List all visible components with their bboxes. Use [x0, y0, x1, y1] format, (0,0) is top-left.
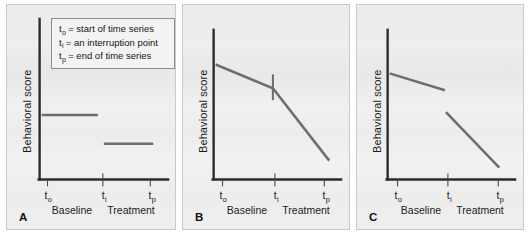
- x-tick-label-t0: to: [44, 189, 51, 201]
- phase-label-baseline: Baseline: [52, 204, 92, 216]
- x-tick-label-tp-sub: p: [500, 195, 504, 204]
- phase-label-treatment: Treatment: [456, 204, 503, 216]
- legend-row: tp = end of time series: [59, 50, 169, 64]
- x-tick-label-ti: ti: [447, 189, 452, 201]
- legend-text: = start of time series: [68, 23, 154, 34]
- x-tick-label-ti-sub: i: [450, 195, 452, 204]
- legend-symbol: tp: [59, 50, 66, 61]
- legend-subscript: i: [62, 42, 64, 49]
- y-axis-title: Behavioral score: [21, 69, 33, 153]
- legend-row: to = start of time series: [59, 23, 169, 37]
- x-tick-label-t0-sub: o: [398, 195, 402, 204]
- x-tick-label-tp: tp: [496, 189, 503, 201]
- panel-letter-a: A: [19, 211, 27, 223]
- legend-subscript: o: [62, 29, 66, 36]
- figure-root: Behavioral score to = start of time seri…: [0, 0, 530, 234]
- legend-text: = an interruption point: [66, 37, 158, 48]
- legend-subscript: p: [62, 56, 66, 63]
- x-tick-label-tp-sub: p: [152, 195, 156, 204]
- legend: to = start of time series ti = an interr…: [51, 18, 175, 69]
- x-tick-label-ti-sub: i: [277, 195, 279, 204]
- legend-symbol: ti: [59, 37, 63, 48]
- legend-symbol: to: [59, 23, 66, 34]
- y-axis-title: Behavioral score: [371, 69, 383, 153]
- x-tick-label-tp-sub: p: [326, 195, 330, 204]
- panel-c: Behavioral score to ti tp Baseline Treat…: [356, 4, 524, 230]
- series-treatment: [446, 112, 499, 168]
- phase-label-treatment: Treatment: [107, 204, 154, 216]
- panel-a: Behavioral score to = start of time seri…: [6, 4, 176, 230]
- x-tick-label-ti: ti: [102, 189, 107, 201]
- panel-letter-c: C: [369, 211, 377, 223]
- series-baseline: [390, 73, 445, 90]
- x-tick-label-ti: ti: [274, 189, 279, 201]
- x-tick-label-t0: to: [394, 189, 401, 201]
- x-tick-label-tp: tp: [148, 189, 155, 201]
- phase-label-treatment: Treatment: [282, 204, 329, 216]
- panel-b: Behavioral score to ti tp Baseline Treat…: [182, 4, 350, 230]
- x-tick-label-t0: to: [219, 189, 226, 201]
- x-tick-label-t0-sub: o: [48, 195, 52, 204]
- phase-label-baseline: Baseline: [401, 204, 441, 216]
- legend-row: ti = an interruption point: [59, 37, 169, 51]
- x-tick-label-t0-sub: o: [223, 195, 227, 204]
- x-tick-label-tp: tp: [322, 189, 329, 201]
- y-axis-title: Behavioral score: [197, 69, 209, 153]
- legend-text: = end of time series: [68, 50, 151, 61]
- phase-label-baseline: Baseline: [227, 204, 267, 216]
- x-tick-label-ti-sub: i: [105, 195, 107, 204]
- panel-letter-b: B: [195, 211, 203, 223]
